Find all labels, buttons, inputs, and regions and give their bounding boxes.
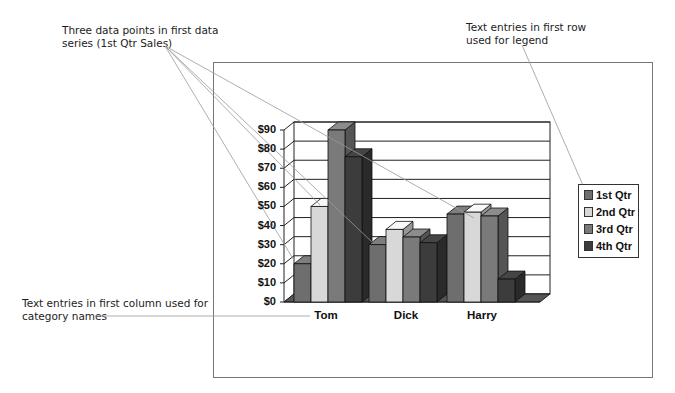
- y-tick-label: $20: [240, 257, 276, 269]
- y-tick-label: $70: [240, 161, 276, 173]
- y-tick-label: $10: [240, 276, 276, 288]
- chart-legend: 1st Qtr 2nd Qtr 3rd Qtr 4th Qtr: [578, 184, 639, 258]
- y-tick-label: $50: [240, 199, 276, 211]
- legend-item-2nd-qtr: 2nd Qtr: [584, 206, 635, 218]
- y-tick-label: $60: [240, 180, 276, 192]
- legend-item-1st-qtr: 1st Qtr: [584, 189, 631, 201]
- y-tick-label: $90: [240, 123, 276, 135]
- legend-swatch: [584, 190, 593, 200]
- legend-swatch: [584, 207, 593, 217]
- legend-item-3rd-qtr: 3rd Qtr: [584, 223, 633, 235]
- legend-swatch: [584, 241, 593, 251]
- y-tick-label: $80: [240, 142, 276, 154]
- y-tick-label: $0: [240, 295, 276, 307]
- legend-swatch: [584, 224, 593, 234]
- category-label: Dick: [376, 309, 436, 321]
- category-label: Tom: [296, 309, 356, 321]
- category-label: Harry: [452, 309, 512, 321]
- legend-item-4th-qtr: 4th Qtr: [584, 240, 632, 252]
- y-tick-label: $40: [240, 219, 276, 231]
- bar-chart-plot: [0, 0, 675, 393]
- y-tick-label: $30: [240, 238, 276, 250]
